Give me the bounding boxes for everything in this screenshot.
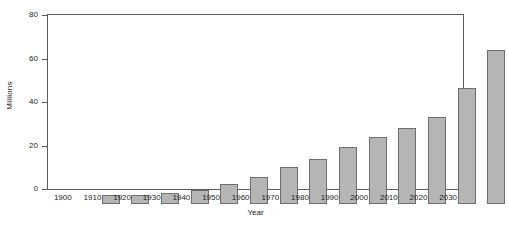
y-axis-tick: 0	[0, 189, 47, 190]
bar-group	[185, 30, 215, 204]
y-axis-tick-label: 20	[29, 141, 38, 150]
bar-group	[481, 30, 509, 204]
y-axis-tick-label: 0	[34, 184, 38, 193]
y-axis-tick-label: 40	[29, 97, 38, 106]
x-axis-tick-label: 1980	[285, 193, 315, 205]
bar-group	[392, 30, 422, 204]
bar	[487, 50, 505, 204]
y-axis-tick: 80	[0, 15, 47, 16]
x-axis-tick-label: 1950	[196, 193, 226, 205]
bar-group	[244, 30, 274, 204]
x-axis-title: Year	[47, 208, 464, 217]
x-axis-tick-labels: 1900191019201930194019501960197019801990…	[48, 193, 463, 205]
x-axis-tick-label: 1970	[255, 193, 285, 205]
x-axis-tick-label: 1940	[167, 193, 197, 205]
bars-layer	[96, 30, 509, 204]
x-axis-tick-label: 1900	[48, 193, 78, 205]
bar-group	[452, 30, 482, 204]
y-axis-title: Millions	[2, 0, 16, 190]
x-axis-tick-label: 1930	[137, 193, 167, 205]
bar-group	[126, 30, 156, 204]
y-axis-tick-label: 60	[29, 54, 38, 63]
bar-group	[303, 30, 333, 204]
bar-group	[363, 30, 393, 204]
bar-group	[422, 30, 452, 204]
x-axis-tick-label: 1920	[107, 193, 137, 205]
x-axis-tick-label: 1960	[226, 193, 256, 205]
bar-group	[274, 30, 304, 204]
x-axis-tick-label: 2010	[374, 193, 404, 205]
x-axis-tick-label: 2030	[433, 193, 463, 205]
x-axis-tick-label: 2000	[344, 193, 374, 205]
x-axis-tick-label: 1990	[315, 193, 345, 205]
bar-group	[215, 30, 245, 204]
plot-area	[47, 14, 464, 190]
bar-group	[96, 30, 126, 204]
bar-group	[333, 30, 363, 204]
y-axis-title-text: Millions	[5, 81, 14, 109]
y-axis-tick: 40	[0, 102, 47, 103]
x-axis-tick-label: 2020	[404, 193, 434, 205]
bar	[458, 88, 476, 204]
y-axis-tick-label: 80	[29, 10, 38, 19]
bar	[428, 117, 446, 204]
y-axis-tick: 20	[0, 146, 47, 147]
y-axis-tick: 60	[0, 59, 47, 60]
x-axis-tick-label: 1910	[78, 193, 108, 205]
bar-group	[155, 30, 185, 204]
